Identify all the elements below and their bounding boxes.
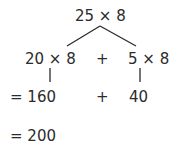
right-branch-line [100,26,136,46]
plus-sign: + [96,50,109,68]
right-result: 40 [129,88,148,106]
left-branch-line [67,26,100,46]
top-expression: 25 × 8 [75,7,126,25]
final-result: = 200 [10,127,56,145]
plus-sign-2: + [96,88,109,106]
left-branch-expression: 20 × 8 [25,50,76,68]
left-result: = 160 [10,88,56,106]
right-branch-expression: 5 × 8 [128,50,169,68]
